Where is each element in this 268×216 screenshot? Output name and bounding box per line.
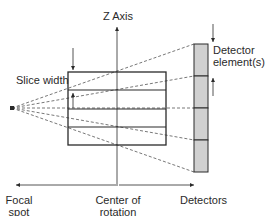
detector-element-2	[194, 76, 208, 108]
focal-spot-line-1: Focal	[2, 194, 36, 206]
detector-element-4	[194, 140, 208, 172]
focal-spot-marker	[10, 106, 14, 110]
center-of-rotation-line-1: Center of	[86, 194, 150, 206]
z-axis-label: Z Axis	[103, 10, 133, 22]
detector-element-line-2: element(s)	[213, 56, 268, 68]
focal-spot-label: Focal spot	[2, 194, 36, 216]
detector-element-text: Detectorelement(s)	[213, 44, 268, 68]
ct-geometry-diagram	[0, 0, 268, 216]
ray-4	[12, 108, 194, 140]
detector-element-1	[194, 44, 208, 76]
center-of-rotation-label: Center of rotation	[86, 194, 150, 216]
detector-element-3	[194, 108, 208, 140]
detector-element-label: Detectorelement(s)	[213, 44, 268, 68]
x-ray-beams	[12, 44, 194, 172]
ray-5	[12, 108, 194, 172]
slice-width-label: Slice width	[16, 74, 69, 86]
center-of-rotation-line-2: rotation	[86, 206, 150, 216]
detector-array	[194, 44, 208, 172]
focal-spot-line-2: spot	[2, 206, 36, 216]
detectors-label: Detectors	[180, 194, 227, 206]
detector-element-line-1: Detector	[213, 44, 268, 56]
